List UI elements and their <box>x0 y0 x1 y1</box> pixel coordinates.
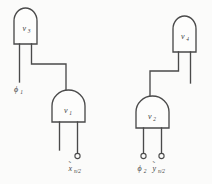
gate-v4-label: v <box>181 32 185 41</box>
gate-v4-sublabel: 4 <box>186 36 189 42</box>
gate-v3-sublabel: 3 <box>27 28 31 34</box>
port-y-sublabel: n/2 <box>158 168 165 174</box>
gate-v2-body <box>136 96 169 128</box>
gate-v2-label: v <box>148 112 152 121</box>
gate-v2-sublabel: 2 <box>153 116 156 122</box>
terminal-phi2[interactable] <box>141 153 146 158</box>
port-y-label: y <box>152 164 157 173</box>
circuit-diagram: v 3 v 1 ϕ 1 ˜ x n/2 v 4 v 2 ϕ 2 ˜ y n/2 <box>0 0 212 184</box>
port-x-sublabel: n/2 <box>74 168 81 174</box>
wire-v3-right-to-v1 <box>32 44 67 90</box>
circuit-canvas: v 3 v 1 ϕ 1 ˜ x n/2 v 4 v 2 ϕ 2 ˜ y n/2 <box>0 0 212 184</box>
gate-v1-body <box>52 90 85 122</box>
gate-v3-label: v <box>23 24 27 33</box>
terminal-x[interactable] <box>75 153 80 158</box>
port-x-label: x <box>68 164 73 173</box>
terminal-y[interactable] <box>159 153 164 158</box>
gate-v1-sublabel: 1 <box>69 110 72 116</box>
gate-v1-label: v <box>64 106 68 115</box>
port-phi1-sublabel: 1 <box>20 89 23 95</box>
wire-v4-left-to-v2 <box>150 52 179 96</box>
port-phi1-label: ϕ <box>14 85 18 94</box>
port-phi2-sublabel: 2 <box>144 168 147 174</box>
port-phi2-label: ϕ <box>138 164 142 173</box>
